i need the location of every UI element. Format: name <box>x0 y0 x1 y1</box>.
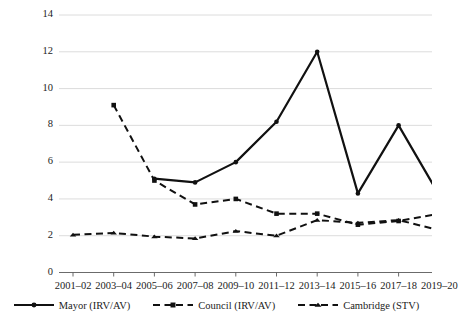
data-point-square <box>274 211 279 216</box>
x-tick-label: 2013–14 <box>295 281 339 292</box>
data-point-square <box>152 178 157 183</box>
series-line-2 <box>114 105 432 225</box>
x-tick-label: 2017–18 <box>377 281 421 292</box>
data-point-circle <box>356 191 361 196</box>
data-point-triangle <box>314 218 321 222</box>
data-point-circle <box>234 160 239 165</box>
legend-item-1[interactable]: Mayor (IRV/AV) <box>13 298 131 312</box>
legend-swatch-square-icon <box>152 298 194 312</box>
data-point-square <box>193 202 198 207</box>
data-point-circle <box>274 119 279 124</box>
x-tick-label: 2001–02 <box>51 281 95 292</box>
y-tick-label: 12 <box>0 46 53 57</box>
x-tick-label: 2019–20 <box>417 281 461 292</box>
y-tick-label: 14 <box>0 9 53 20</box>
legend-item-3[interactable]: Cambridge (STV) <box>297 298 419 312</box>
y-tick-label: 0 <box>0 267 53 278</box>
series-line-1 <box>154 52 432 195</box>
data-point-circle <box>315 50 320 55</box>
x-tick-label: 2003–04 <box>92 281 136 292</box>
legend-label: Council (IRV/AV) <box>198 300 275 311</box>
data-point-square <box>111 103 116 108</box>
data-point-square <box>315 211 320 216</box>
x-tick-label: 2011–12 <box>255 281 299 292</box>
legend-item-2[interactable]: Council (IRV/AV) <box>152 298 275 312</box>
y-tick-label: 10 <box>0 83 53 94</box>
chart-legend: Mayor (IRV/AV)Council (IRV/AV)Cambridge … <box>0 294 432 316</box>
legend-label: Cambridge (STV) <box>343 300 419 311</box>
data-point-square <box>234 197 239 202</box>
y-tick-label: 2 <box>0 230 53 241</box>
y-tick-label: 4 <box>0 193 53 204</box>
x-tick-label: 2009–10 <box>214 281 258 292</box>
legend-swatch-circle-icon <box>13 298 55 312</box>
series-layer <box>70 50 432 241</box>
legend-swatch-triangle-icon <box>297 298 339 312</box>
x-axis-ticks <box>73 273 432 277</box>
data-point-circle <box>193 180 198 185</box>
x-tick-label: 2007–08 <box>173 281 217 292</box>
legend-label: Mayor (IRV/AV) <box>59 300 131 311</box>
x-tick-label: 2015–16 <box>336 281 380 292</box>
y-tick-label: 8 <box>0 119 53 130</box>
data-point-circle <box>396 123 401 128</box>
y-tick-label: 6 <box>0 156 53 167</box>
x-tick-label: 2005–06 <box>132 281 176 292</box>
